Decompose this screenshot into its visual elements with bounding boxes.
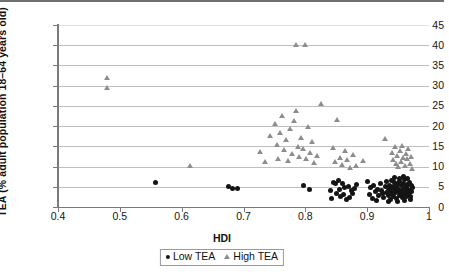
data-point-high-tea — [344, 157, 350, 162]
data-point-high-tea — [309, 139, 315, 144]
y-tick-label: 5 — [398, 181, 444, 192]
x-tick-label: 0.9 — [347, 211, 387, 222]
data-point-high-tea — [296, 154, 302, 159]
legend-entry-high-tea: High TEA — [224, 251, 278, 263]
data-point-high-tea — [287, 126, 293, 131]
y-tick — [53, 187, 58, 188]
data-point-high-tea — [334, 117, 340, 122]
data-point-high-tea — [360, 158, 366, 163]
data-point-high-tea — [330, 145, 336, 150]
data-point-high-tea — [347, 165, 353, 170]
data-point-high-tea — [350, 152, 356, 157]
y-tick — [53, 106, 58, 107]
data-point-low-tea — [365, 179, 370, 184]
figure-top-rule — [0, 0, 444, 2]
y-tick — [53, 126, 58, 127]
x-tick-label: 0.5 — [100, 211, 140, 222]
data-point-high-tea — [291, 118, 297, 123]
triangle-marker-icon — [224, 254, 230, 259]
data-point-high-tea — [257, 149, 263, 154]
gridline — [58, 126, 429, 127]
data-point-high-tea — [293, 108, 299, 113]
plot-area — [58, 25, 429, 207]
data-point-high-tea — [293, 42, 299, 47]
data-point-high-tea — [303, 156, 309, 161]
y-tick — [53, 167, 58, 168]
data-point-low-tea — [386, 199, 391, 204]
gridline — [58, 86, 429, 87]
data-point-low-tea — [307, 187, 312, 192]
y-tick-label: 20 — [398, 121, 444, 132]
data-point-high-tea — [337, 155, 343, 160]
y-axis-title: TEA (% adult population 18–64 years old) — [0, 0, 10, 224]
data-point-high-tea — [104, 85, 110, 90]
y-tick-label: 10 — [398, 161, 444, 172]
y-tick — [53, 65, 58, 66]
y-tick-label: 40 — [398, 40, 444, 51]
data-point-high-tea — [305, 124, 311, 129]
legend-entry-low-tea: Low TEA — [166, 251, 215, 263]
y-tick-label: 30 — [398, 80, 444, 91]
data-point-low-tea — [350, 191, 355, 196]
data-point-high-tea — [272, 121, 278, 126]
data-point-high-tea — [311, 160, 317, 165]
data-point-low-tea — [378, 181, 383, 186]
x-tick-label: 0.7 — [224, 211, 264, 222]
y-tick-label: 45 — [398, 20, 444, 31]
data-point-high-tea — [187, 163, 193, 168]
y-tick-label: 35 — [398, 60, 444, 71]
y-tick — [53, 45, 58, 46]
legend-label-low-tea: Low TEA — [173, 251, 215, 263]
data-point-high-tea — [318, 101, 324, 106]
gridline — [58, 65, 429, 66]
data-point-high-tea — [298, 135, 304, 140]
data-point-high-tea — [104, 75, 110, 80]
data-point-low-tea — [153, 180, 158, 185]
data-point-high-tea — [274, 142, 280, 147]
data-point-low-tea — [301, 183, 306, 188]
y-tick — [53, 25, 58, 26]
data-point-low-tea — [374, 198, 379, 203]
y-axis-title-text: TEA (% adult population 18–64 years old) — [0, 7, 8, 217]
x-axis-title: HDI — [0, 232, 444, 244]
data-point-high-tea — [275, 156, 281, 161]
gridline — [58, 106, 429, 107]
data-point-high-tea — [283, 137, 289, 142]
data-point-low-tea — [235, 186, 240, 191]
data-point-high-tea — [277, 130, 283, 135]
y-tick-label: 25 — [398, 100, 444, 111]
y-tick — [53, 86, 58, 87]
data-point-low-tea — [328, 188, 333, 193]
data-point-high-tea — [281, 147, 287, 152]
circle-marker-icon — [166, 255, 170, 259]
data-point-high-tea — [353, 163, 359, 168]
x-tick-label: 1 — [409, 211, 449, 222]
data-point-high-tea — [342, 148, 348, 153]
gridline — [58, 45, 429, 46]
data-point-high-tea — [394, 153, 400, 158]
x-tick-label: 0.6 — [162, 211, 202, 222]
data-point-high-tea — [262, 159, 268, 164]
gridline — [58, 167, 429, 168]
data-point-high-tea — [279, 113, 285, 118]
data-point-high-tea — [267, 133, 273, 138]
x-tick-label: 0.4 — [38, 211, 78, 222]
data-point-low-tea — [329, 196, 334, 201]
gridline — [58, 25, 429, 26]
data-point-high-tea — [408, 154, 414, 159]
y-tick — [53, 146, 58, 147]
data-point-high-tea — [339, 162, 345, 167]
legend-label-high-tea: High TEA — [233, 251, 278, 263]
x-tick-label: 0.8 — [285, 211, 325, 222]
y-tick-label: 15 — [398, 141, 444, 152]
data-point-high-tea — [300, 146, 306, 151]
data-point-high-tea — [382, 136, 388, 141]
data-point-high-tea — [302, 42, 308, 47]
y-axis-line — [57, 24, 59, 208]
gridline — [58, 146, 429, 147]
data-point-high-tea — [285, 158, 291, 163]
data-point-high-tea — [314, 153, 320, 158]
data-point-high-tea — [289, 151, 295, 156]
data-point-high-tea — [307, 150, 313, 155]
